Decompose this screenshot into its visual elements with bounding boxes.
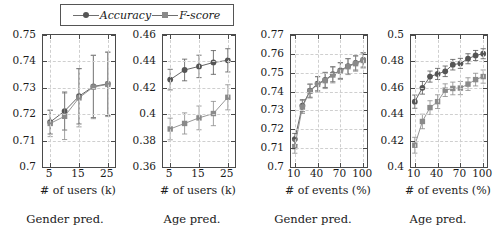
x-tick-mark bbox=[199, 35, 200, 39]
x-tick-label: 25 bbox=[220, 168, 233, 179]
data-point-circle bbox=[182, 67, 188, 73]
legend-label-accuracy: Accuracy bbox=[99, 9, 153, 22]
plot-area bbox=[410, 34, 488, 168]
data-point-square bbox=[300, 104, 305, 109]
y-tick-label: 0.76 bbox=[261, 48, 284, 59]
caption-gender-pred-events: Gender pred. bbox=[248, 212, 378, 226]
y-tick-label: 0.46 bbox=[133, 29, 156, 40]
x-tick-label: 100 bbox=[472, 168, 492, 179]
x-tick-mark bbox=[79, 35, 80, 39]
data-point-circle bbox=[450, 62, 456, 68]
gridline-vertical bbox=[50, 35, 51, 167]
gridline-horizontal bbox=[291, 92, 367, 93]
y-tick-label: 0.72 bbox=[13, 108, 36, 119]
y-tick-label: 0.71 bbox=[13, 134, 36, 145]
data-point-square bbox=[473, 77, 478, 82]
legend-item-fscore: F-score bbox=[152, 9, 221, 22]
y-tick-mark bbox=[43, 61, 47, 62]
y-tick-mark bbox=[111, 114, 115, 115]
y-tick-label: 0.5 bbox=[387, 29, 404, 40]
y-tick-label: 0.7 bbox=[267, 161, 284, 172]
gridline-vertical bbox=[170, 35, 171, 167]
y-tick-mark bbox=[163, 114, 167, 115]
caption-age-pred-users: Age pred. bbox=[124, 212, 260, 226]
y-tick-label: 0.71 bbox=[261, 142, 284, 153]
y-tick-label: 0.7 bbox=[19, 161, 36, 172]
y-tick-mark bbox=[43, 35, 47, 36]
y-tick-mark bbox=[163, 141, 167, 142]
x-tick-mark bbox=[438, 35, 439, 39]
data-point-square bbox=[345, 64, 350, 69]
y-tick-label: 0.48 bbox=[381, 55, 404, 66]
chart-legend: Accuracy F-score bbox=[60, 4, 234, 26]
data-point-circle bbox=[442, 68, 448, 74]
x-tick-mark bbox=[108, 35, 109, 39]
y-tick-label: 0.38 bbox=[133, 134, 156, 145]
y-tick-mark bbox=[43, 114, 47, 115]
gridline-horizontal bbox=[291, 148, 367, 149]
y-tick-label: 0.42 bbox=[381, 134, 404, 145]
x-tick-mark bbox=[363, 35, 364, 39]
caption-age-pred-events: Age pred. bbox=[372, 212, 499, 226]
data-point-circle bbox=[427, 74, 433, 80]
legend-line-fscore bbox=[152, 15, 178, 16]
x-axis-ticks: 104070100 bbox=[290, 168, 366, 182]
y-tick-mark bbox=[111, 141, 115, 142]
plot-area bbox=[290, 34, 368, 168]
gridline-vertical bbox=[483, 35, 484, 167]
y-tick-label: 0.73 bbox=[13, 82, 36, 93]
gridline-vertical bbox=[363, 35, 364, 167]
gridline-horizontal bbox=[291, 54, 367, 55]
gridline-vertical bbox=[460, 35, 461, 167]
x-axis-ticks: 104070100 bbox=[410, 168, 486, 182]
y-tick-label: 0.73 bbox=[261, 104, 284, 115]
gridline-horizontal bbox=[291, 110, 367, 111]
x-tick-mark bbox=[340, 35, 341, 39]
legend-line-accuracy bbox=[73, 15, 99, 16]
y-tick-mark bbox=[231, 61, 235, 62]
x-tick-label: 100 bbox=[352, 168, 372, 179]
data-point-square bbox=[427, 105, 432, 110]
y-tick-mark bbox=[231, 35, 235, 36]
legend-label-fscore: F-score bbox=[178, 9, 221, 22]
x-tick-mark bbox=[50, 35, 51, 39]
x-tick-label: 15 bbox=[71, 168, 84, 179]
figure-multi-panel: Accuracy F-score 0.70.710.720.730.740.75… bbox=[0, 0, 499, 244]
y-tick-mark bbox=[111, 88, 115, 89]
gridline-horizontal bbox=[291, 73, 367, 74]
y-axis-ticks: 0.360.380.40.420.440.46 bbox=[124, 34, 160, 166]
gridline-vertical bbox=[108, 35, 109, 167]
gridline-horizontal bbox=[291, 129, 367, 130]
series-accuracy bbox=[292, 53, 366, 145]
y-tick-label: 0.4 bbox=[387, 161, 404, 172]
y-tick-label: 0.72 bbox=[261, 123, 284, 134]
gridline-vertical bbox=[340, 35, 341, 167]
y-tick-label: 0.46 bbox=[381, 82, 404, 93]
x-tick-mark bbox=[318, 35, 319, 39]
gridline-vertical bbox=[415, 35, 416, 167]
gridline-horizontal bbox=[411, 114, 487, 115]
y-tick-mark bbox=[111, 35, 115, 36]
y-tick-label: 0.77 bbox=[261, 29, 284, 40]
gridline-horizontal bbox=[411, 141, 487, 142]
caption-gender-pred-users: Gender pred. bbox=[0, 212, 130, 226]
data-point-square bbox=[420, 119, 425, 124]
x-tick-label: 5 bbox=[46, 168, 53, 179]
legend-item-accuracy: Accuracy bbox=[73, 9, 153, 22]
x-axis-ticks: 51525 bbox=[42, 168, 114, 182]
y-axis-ticks: 0.70.710.720.730.740.75 bbox=[4, 34, 40, 166]
y-tick-mark bbox=[43, 141, 47, 142]
gridline-vertical bbox=[438, 35, 439, 167]
y-tick-label: 0.75 bbox=[261, 66, 284, 77]
square-marker-icon bbox=[162, 12, 168, 18]
y-tick-label: 0.74 bbox=[261, 85, 284, 96]
plot-area bbox=[42, 34, 116, 168]
gridline-vertical bbox=[199, 35, 200, 167]
gridline-vertical bbox=[318, 35, 319, 167]
x-tick-label: 40 bbox=[310, 168, 323, 179]
x-tick-label: 70 bbox=[333, 168, 346, 179]
x-tick-mark bbox=[170, 35, 171, 39]
y-tick-label: 0.4 bbox=[139, 108, 156, 119]
plot-area bbox=[162, 34, 236, 168]
x-tick-mark bbox=[228, 35, 229, 39]
